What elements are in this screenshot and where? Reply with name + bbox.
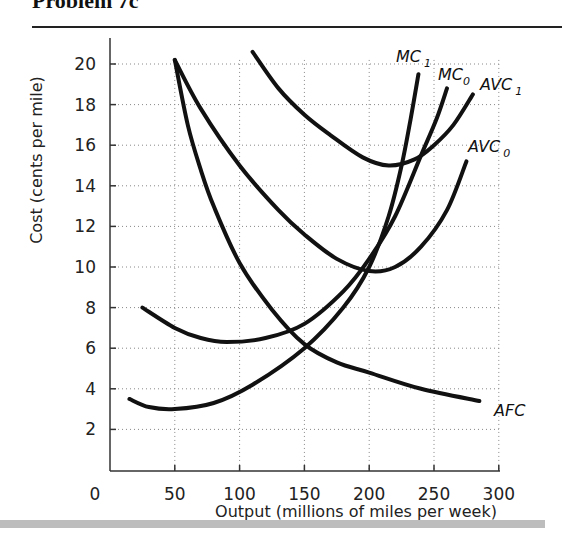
x-tick-label: 150 — [288, 484, 320, 504]
y-tick-label: 6 — [85, 338, 96, 358]
y-tick-label: 4 — [85, 379, 96, 399]
y-tick-label: 16 — [74, 135, 96, 155]
y-tick-label: 12 — [74, 216, 96, 236]
y-tick-label: 10 — [74, 257, 96, 277]
mc0-label: MC0 — [438, 65, 470, 88]
y-tick-label: 14 — [74, 176, 96, 196]
avc0-label: AVC0 — [467, 137, 510, 160]
y-axis-label: Cost (cents per mile) — [27, 76, 46, 244]
cost-curves — [129, 52, 479, 409]
afc-label: AFC — [493, 401, 526, 420]
avc0-curve — [175, 60, 467, 272]
y-tick-label: 18 — [74, 95, 96, 115]
y-tick-label: 2 — [85, 419, 96, 439]
x-tick-label: 300 — [483, 484, 515, 504]
origin-label: 0 — [90, 484, 101, 504]
bottom-band — [0, 520, 545, 528]
y-tick-label: 20 — [74, 54, 96, 74]
x-tick-label: 250 — [418, 484, 450, 504]
x-tick-label: 100 — [223, 484, 255, 504]
avc1-label: AVC1 — [479, 75, 522, 98]
x-tick-label: 200 — [353, 484, 385, 504]
y-tick-label: 8 — [85, 298, 96, 318]
mc1-label: MC1 — [396, 47, 431, 70]
mc1-curve — [129, 74, 418, 409]
x-axis-label: Output (millions of miles per week) — [215, 502, 497, 521]
x-tick-label: 50 — [164, 484, 186, 504]
chart: 2468101214161820 50100150200250300 0 Out… — [0, 0, 562, 552]
